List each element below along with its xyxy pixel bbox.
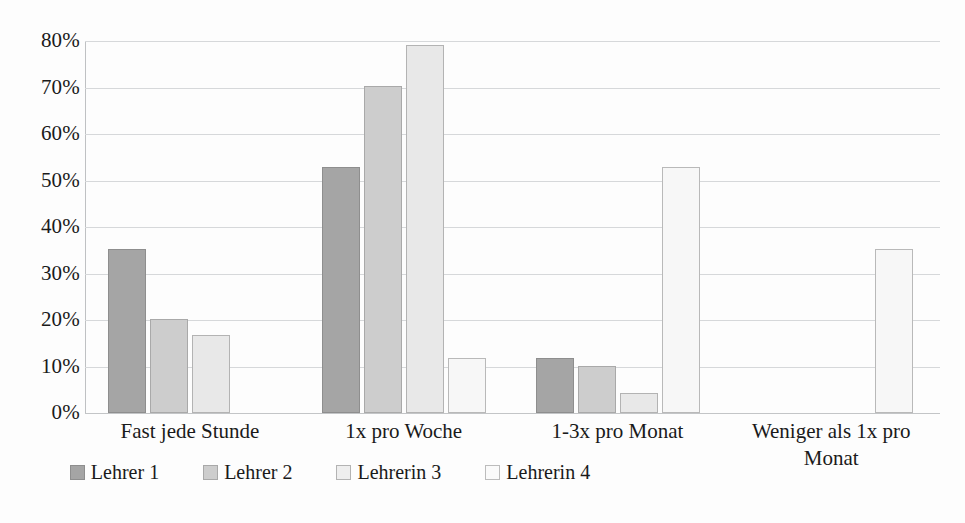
y-axis-tick-label: 60% — [6, 123, 80, 144]
legend-swatch-icon — [336, 465, 351, 480]
legend-item-label: Lehrer 1 — [91, 462, 159, 482]
y-axis-tick-label: 0% — [6, 402, 80, 423]
bar — [364, 86, 402, 413]
axis-baseline — [85, 413, 940, 414]
gridline — [85, 41, 940, 42]
gridline — [85, 88, 940, 89]
bar — [875, 249, 913, 413]
gridline — [85, 181, 940, 182]
bar — [150, 319, 188, 413]
bar-chart: 0%10%20%30%40%50%60%70%80% Fast jede Stu… — [0, 0, 965, 523]
legend-item[interactable]: Lehrer 1 — [70, 462, 159, 482]
x-axis-category-label: Fast jede Stunde — [90, 418, 290, 445]
bar — [448, 358, 486, 413]
gridline — [85, 134, 940, 135]
legend-swatch-icon — [70, 465, 85, 480]
legend-item-label: Lehrer 2 — [224, 462, 292, 482]
y-axis-tick-label: 70% — [6, 77, 80, 98]
plot-area — [85, 41, 940, 413]
x-axis-category-label: 1-3x pro Monat — [518, 418, 718, 445]
legend-item[interactable]: Lehrerin 4 — [485, 462, 590, 482]
bar — [192, 335, 230, 413]
bar — [322, 167, 360, 413]
gridline — [85, 320, 940, 321]
y-axis-tick-label: 80% — [6, 30, 80, 51]
legend-item[interactable]: Lehrerin 3 — [336, 462, 441, 482]
legend-item-label: Lehrerin 3 — [357, 462, 441, 482]
bar — [406, 45, 444, 413]
y-axis-tick-label: 10% — [6, 356, 80, 377]
y-axis-tick-label: 50% — [6, 170, 80, 191]
x-axis-category-label: Weniger als 1x pro Monat — [731, 418, 931, 472]
y-axis-tick-label: 40% — [6, 216, 80, 237]
y-axis-tick-labels: 0%10%20%30%40%50%60%70%80% — [0, 0, 80, 523]
legend-item[interactable]: Lehrer 2 — [203, 462, 292, 482]
bar — [536, 358, 574, 413]
gridline — [85, 227, 940, 228]
legend-swatch-icon — [485, 465, 500, 480]
bar — [578, 366, 616, 413]
legend-swatch-icon — [203, 465, 218, 480]
bar — [662, 167, 700, 413]
legend-item-label: Lehrerin 4 — [506, 462, 590, 482]
chart-legend: Lehrer 1Lehrer 2Lehrerin 3Lehrerin 4 — [0, 462, 660, 482]
y-axis-tick-label: 30% — [6, 263, 80, 284]
x-axis-category-label: 1x pro Woche — [304, 418, 504, 445]
bar — [620, 393, 658, 413]
bar — [108, 249, 146, 413]
gridline — [85, 274, 940, 275]
y-axis-tick-label: 20% — [6, 309, 80, 330]
